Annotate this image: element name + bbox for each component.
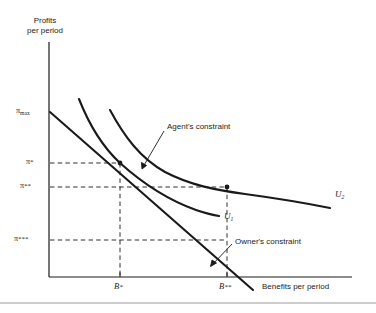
pi-star-superscript: * xyxy=(30,158,34,166)
agents-constraint-leader xyxy=(143,131,164,167)
y-tick-label-pi-max: πmax xyxy=(16,106,30,117)
x-tick-label-b-double-star: B** xyxy=(219,282,231,293)
dashed-guides xyxy=(50,163,227,276)
u1-subscript: 1 xyxy=(231,216,234,222)
tangency-point-b-star xyxy=(118,161,123,166)
annotation-owners-constraint: Owner's constraint xyxy=(235,237,301,247)
u1-base: U xyxy=(224,211,231,221)
y-axis-title: Profits per period xyxy=(12,16,78,35)
y-tick-label-pi-double-star: π** xyxy=(20,181,31,192)
y-axis-title-line1: Profits xyxy=(34,16,57,25)
pi-double-star-superscript: ** xyxy=(24,182,31,190)
axis-lines xyxy=(49,42,352,277)
pi-max-subscript: max xyxy=(20,110,30,116)
owners-constraint-line xyxy=(50,112,253,290)
x-axis-tick-marks xyxy=(120,273,227,278)
u2-base: U xyxy=(335,189,342,199)
chart-canvas xyxy=(0,0,376,313)
b-star-superscript: * xyxy=(119,283,123,291)
b-double-star-superscript: ** xyxy=(224,283,231,291)
tangency-point-b-2star xyxy=(225,185,230,190)
curve-label-u2: U2 xyxy=(335,190,344,201)
curve-label-u1: U1 xyxy=(224,212,233,223)
y-tick-label-pi-star: π* xyxy=(26,157,34,168)
agents-constraint-arrowhead xyxy=(142,163,147,170)
u2-subscript: 2 xyxy=(342,194,345,200)
pi-triple-star-superscript: *** xyxy=(18,235,29,243)
x-axis-title: Benefits per period xyxy=(262,282,329,292)
x-tick-label-b-star: B* xyxy=(114,282,123,293)
leader-lines xyxy=(142,131,233,267)
economics-figure: Profits per period Benefits per period π… xyxy=(0,0,376,313)
y-axis-title-line2: per period xyxy=(27,26,63,35)
annotation-agents-constraint: Agent's constraint xyxy=(167,122,230,132)
y-tick-label-pi-triple-star: π*** xyxy=(14,234,29,245)
